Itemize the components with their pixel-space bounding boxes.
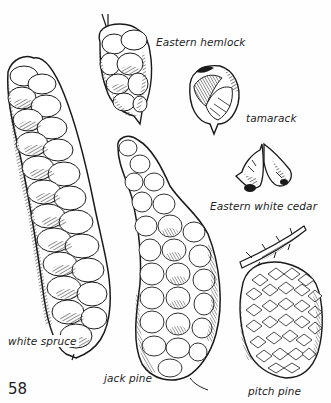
label-jack-pine: jack pine [104, 372, 152, 384]
book-page: Eastern hemlock tamarack Eastern white c… [0, 0, 331, 403]
label-pitch-pine: pitch pine [248, 385, 301, 397]
white-spruce-cone-illustration [2, 54, 114, 360]
pitch-pine-cone-illustration [232, 222, 328, 382]
label-white-spruce: white spruce [8, 335, 79, 347]
label-tamarack: tamarack [246, 112, 297, 124]
jack-pine-cone-illustration [112, 134, 228, 390]
label-eastern-hemlock: Eastern hemlock [156, 36, 245, 48]
page-number: 58 [8, 380, 27, 398]
tamarack-cone-illustration [184, 62, 244, 136]
eastern-white-cedar-cone-illustration [228, 142, 298, 198]
